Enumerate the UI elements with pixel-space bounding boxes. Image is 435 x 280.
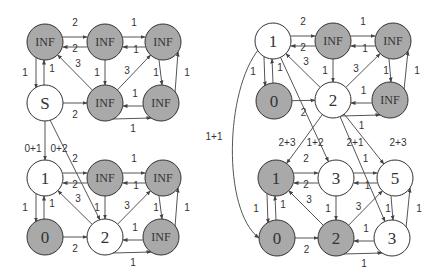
edge-left-top-b-d-weight: 1: [94, 67, 100, 78]
edge-left-top-d-a-weight: 3: [75, 58, 81, 69]
node-right-top-c: INF: [375, 23, 411, 59]
node-left-top-e: INF: [143, 85, 179, 121]
node-label: INF: [95, 171, 115, 185]
edge-left-top-e-d-weight: 1: [132, 88, 138, 99]
edge-right-bottom-c-e-weight: 1: [385, 203, 391, 214]
edge-left-top-c-b-weight: 1: [131, 17, 137, 28]
edge-left-bottom-s-a-weight: 1: [49, 198, 55, 209]
edge-right-bottom-b-c-weight: 1: [365, 180, 371, 191]
labels-layer: 2211113131121122111131311211221111313112…: [22, 16, 422, 269]
edge-left-bottom-a-b-weight: 2: [72, 179, 78, 190]
edge-left-bottom-d-c: [118, 191, 151, 224]
edge-right-bottom-e-c: [406, 188, 410, 228]
edge-right-top-e-c: [404, 51, 408, 90]
edge-right-bottom-c-b-weight: 1: [363, 153, 369, 164]
edge-right-top-d-c: [346, 54, 380, 88]
edge-right-top-s-a-weight: 1: [277, 62, 283, 73]
edge-right-bottom-a-s: [267, 194, 268, 223]
node-right-bottom-c: 5: [377, 160, 413, 196]
connector-1-to-0-label: 1+1: [206, 131, 223, 142]
node-label: 1: [269, 32, 278, 51]
edge-right-bottom-e-d-weight: 1: [363, 223, 369, 234]
edge-left-top-b-c-weight: 1: [133, 44, 139, 55]
edge-left-top-d-e-weight: 1: [130, 123, 136, 134]
edge-left-bottom-c-e: [159, 196, 162, 219]
edge-right-bottom-d-e: [344, 253, 382, 254]
node-label: INF: [153, 171, 173, 185]
node-label: INF: [383, 34, 403, 48]
edge-right-top-b-d-weight: 1: [322, 65, 328, 76]
node-left-top-a: INF: [27, 24, 63, 60]
edge-left-bottom-b-d-weight: 1: [94, 202, 100, 213]
edge-right-top-a-s-weight: 1: [250, 66, 256, 77]
node-label: 0: [273, 229, 282, 248]
node-right-top-a: 1: [255, 23, 291, 59]
edge-left-bottom-b-a-weight: 2: [72, 153, 78, 164]
connector-1-to-3-weight: 1+2: [307, 137, 324, 148]
edge-right-bottom-d-e-weight: 1: [361, 258, 367, 269]
node-left-bottom-e: INF: [143, 219, 179, 255]
edge-right-top-s-a: [272, 59, 273, 83]
node-right-bottom-d: 2: [318, 220, 354, 256]
edge-left-top-a-s-weight: 1: [22, 67, 28, 78]
node-left-top-d: INF: [87, 85, 123, 121]
edge-right-bottom-d-c: [349, 191, 383, 225]
edge-right-bottom-b-d-weight: 1: [325, 203, 331, 214]
edge-right-top-s-d-weight: 2: [301, 107, 307, 118]
node-left-bottom-d: 2: [87, 219, 123, 255]
edge-left-top-e-c: [175, 52, 178, 93]
edge-left-top-c-e-weight: 1: [153, 67, 159, 78]
node-left-top-s: S: [27, 85, 63, 121]
node-left-bottom-a: 1: [27, 160, 63, 196]
edge-right-top-c-b-weight: 1: [360, 16, 366, 27]
node-label: INF: [95, 35, 115, 49]
edge-right-bottom-d-c-weight: 3: [356, 201, 362, 212]
edge-left-top-e-c-weight: 1: [184, 67, 190, 78]
node-label: INF: [95, 96, 115, 110]
edge-right-top-e-c-weight: 1: [414, 65, 420, 76]
edge-right-top-d-e-weight: 1: [359, 120, 365, 131]
edge-right-top-a-s: [264, 57, 265, 86]
node-label: 5: [391, 169, 400, 188]
node-right-top-b: INF: [315, 23, 351, 59]
edge-left-bottom-d-e-weight: 1: [130, 257, 136, 268]
edge-left-top-d-c-weight: 3: [124, 65, 130, 76]
node-label: 1: [41, 169, 50, 188]
edge-left-top-b-a-weight: 2: [72, 17, 78, 28]
edge-right-top-d-a-weight: 3: [303, 56, 309, 67]
edge-left-bottom-d-a-weight: 3: [75, 193, 81, 204]
edge-left-bottom-b-c-weight: 1: [133, 180, 139, 191]
edge-right-bottom-s-a: [275, 196, 276, 220]
node-label: INF: [151, 96, 171, 110]
edge-right-top-c-e-weight: 1: [383, 65, 389, 76]
edge-left-bottom-s-d-weight: 2: [72, 243, 78, 254]
node-label: 0: [41, 228, 50, 247]
edge-left-top-d-e: [113, 118, 151, 119]
edge-left-bottom-e-c: [175, 188, 178, 227]
connector-s-to-2-label: 0+2: [51, 143, 68, 154]
edge-right-bottom-a-s-weight: 1: [253, 203, 259, 214]
connector-s-to-1-label: 0+1: [25, 143, 42, 154]
edge-left-bottom-a-s-weight: 1: [22, 202, 28, 213]
edge-right-bottom-e-c-weight: 1: [416, 203, 422, 214]
node-right-top-e: INF: [372, 82, 408, 118]
edge-right-top-a-b-weight: 2: [300, 42, 306, 53]
edge-left-bottom-c-b-weight: 1: [131, 153, 137, 164]
node-left-top-b: INF: [87, 24, 123, 60]
node-right-top-s: 0: [256, 83, 292, 119]
edge-right-top-d-c-weight: 3: [353, 63, 359, 74]
edge-right-top-b-c-weight: 1: [362, 43, 368, 54]
edge-right-top-d-e: [341, 115, 380, 116]
edge-right-bottom-s-d-weight: 2: [304, 244, 310, 255]
edge-left-top-a-b-weight: 2: [72, 43, 78, 54]
edge-left-top-s-d-weight: 2: [72, 109, 78, 120]
node-label: INF: [151, 230, 171, 244]
node-label: INF: [380, 93, 400, 107]
connector-2-to-3-weight: 2+1: [347, 137, 364, 148]
node-label: 2: [101, 228, 110, 247]
node-label: S: [40, 94, 49, 113]
edge-right-bottom-b-a-weight: 2: [303, 153, 309, 164]
node-right-bottom-s: 0: [259, 220, 295, 256]
node-left-bottom-b: INF: [87, 160, 123, 196]
edge-left-top-s-a-weight: 1: [49, 63, 55, 74]
